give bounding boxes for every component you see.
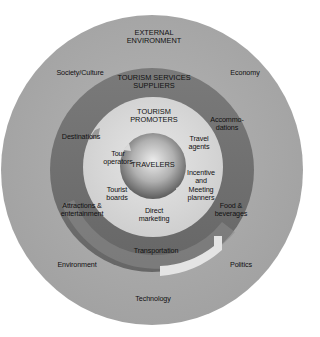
label-travel-agents: Travel agents — [183, 135, 215, 152]
label-environment: Environment — [52, 261, 102, 269]
label-destinations: Destinations — [58, 133, 104, 141]
label-attractions-entertainment: Attractions & entertainment — [58, 202, 106, 219]
tourism-services-suppliers-title: TOURISM SERVICES SUPPLIERS — [114, 74, 194, 91]
label-accommodations: Accommo- dations — [204, 116, 250, 133]
label-economy: Economy — [220, 69, 270, 77]
label-tourist-boards: Tourist boards — [100, 186, 134, 203]
travelers-title: TRAVELERS — [128, 161, 178, 169]
label-technology: Technology — [128, 295, 178, 303]
external-environment-title: EXTERNAL ENVIRONMENT — [118, 29, 190, 46]
label-food-beverages: Food & beverages — [210, 202, 252, 219]
label-incentive-meeting-planners: Incentive and Meeting planners — [183, 169, 219, 203]
label-transportation: Transportation — [128, 247, 184, 255]
label-politics: Politics — [226, 261, 256, 269]
tourism-promoters-title: TOURISM PROMOTERS — [124, 108, 184, 125]
label-society-culture: Society/Culture — [50, 69, 110, 77]
label-direct-marketing: Direct marketing — [134, 207, 174, 224]
